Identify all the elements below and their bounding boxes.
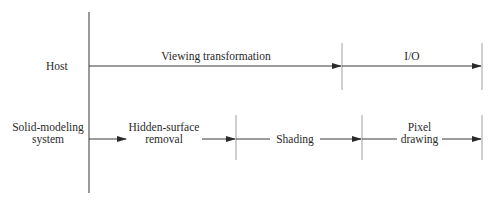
hidden-surface-line2: removal	[126, 133, 202, 145]
stage-label-io: I/O	[382, 50, 442, 62]
pixel-drawing-line2: drawing	[397, 133, 442, 145]
diagram-graphics	[0, 0, 494, 210]
row-label-solid-modeling-line2: system	[10, 133, 86, 145]
stage-label-viewing-transformation: Viewing transformation	[136, 50, 296, 62]
stage-label-shading: Shading	[270, 133, 320, 145]
hidden-surface-line1: Hidden-surface	[126, 121, 202, 133]
pixel-drawing-line1: Pixel	[397, 121, 442, 133]
row-label-solid-modeling: Solid-modeling system	[10, 121, 86, 145]
row-label-solid-modeling-line1: Solid-modeling	[10, 121, 86, 133]
pipeline-timing-diagram: Host Solid-modeling system Viewing trans…	[0, 0, 494, 210]
stage-label-hidden-surface-removal: Hidden-surface removal	[126, 121, 202, 145]
row-label-host: Host	[46, 60, 68, 72]
stage-label-pixel-drawing: Pixel drawing	[397, 121, 442, 145]
